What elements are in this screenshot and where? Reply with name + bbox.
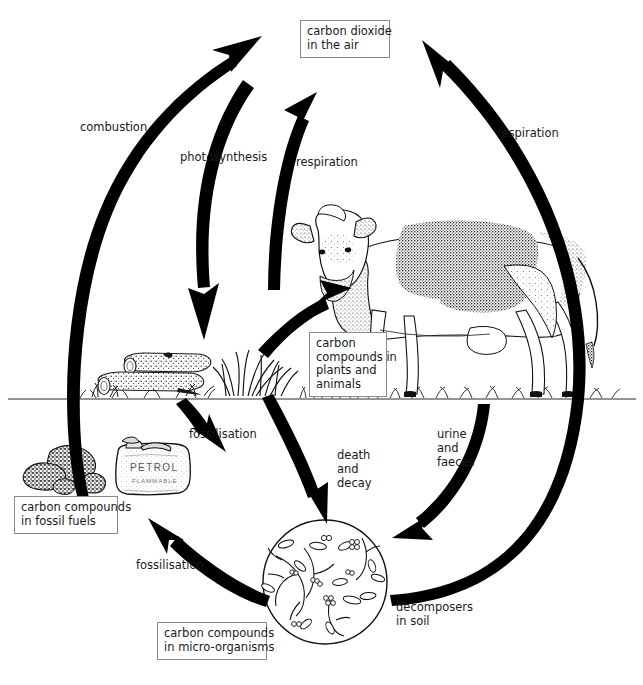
photosynthesis-arrow (196, 80, 254, 288)
label-respiration-animals: respiration (497, 126, 559, 140)
box-carbon-compounds-fossil-fuels: carbon compounds in fossil fuels (14, 496, 118, 534)
box-carbon-compounds-micro-organisms: carbon compounds in micro-organisms (157, 622, 267, 660)
label-death-and-decay: death and decay (337, 448, 372, 490)
carbon-cycle-diagram: PETROL FLAMMABLE (0, 0, 643, 685)
label-fossilisation-wood: fossilisation (189, 427, 257, 441)
label-decomposers-in-soil: decomposers in soil (396, 600, 473, 628)
label-respiration-plants: respiration (296, 155, 358, 169)
label-combustion: combustion (80, 120, 147, 134)
respiration-plants-arrow (268, 116, 309, 290)
label-urine-and-faeces: urine and faeces (437, 427, 475, 469)
box-carbon-dioxide-in-air: carbon dioxide in the air (300, 20, 390, 58)
death-decay-arrow (262, 394, 320, 498)
label-photosynthesis: photosynthesis (180, 150, 267, 164)
box-carbon-compounds-plants-animals: carbon compounds in plants and animals (309, 332, 387, 397)
urine-faeces-arrowhead (392, 514, 433, 540)
photosynthesis-arrowhead (188, 283, 219, 340)
feeding-arrowhead (314, 280, 352, 305)
label-fossilisation-micro: fossilisation (136, 558, 204, 572)
